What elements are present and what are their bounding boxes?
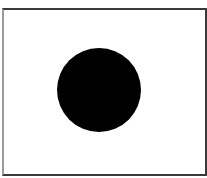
black-circle <box>57 48 141 132</box>
